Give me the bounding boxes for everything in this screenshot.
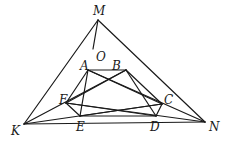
label-point-N: N	[208, 120, 220, 134]
label-point-M: M	[92, 4, 106, 18]
label-point-A: A	[79, 59, 89, 73]
label-point-C: C	[164, 93, 173, 107]
label-point-O: O	[96, 50, 106, 64]
label-point-E: E	[75, 120, 85, 134]
geometry-diagram: MOABFCEDKN	[0, 0, 231, 144]
point-labels: MOABFCEDKN	[10, 4, 220, 138]
segment-KN	[24, 122, 205, 124]
segment-BF	[66, 70, 126, 103]
segment-AC	[88, 70, 162, 104]
label-point-B: B	[111, 59, 121, 73]
label-point-K: K	[10, 124, 21, 138]
label-point-F: F	[58, 93, 68, 107]
segment-CD	[156, 104, 162, 116]
label-point-D: D	[149, 120, 160, 134]
